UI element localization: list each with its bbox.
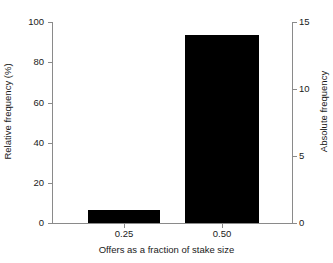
y-tick-right-0: [293, 223, 297, 224]
y-tick-label-left-40: 40: [33, 138, 44, 148]
y-tick-label-right-15: 15: [299, 17, 310, 27]
y-tick-label-right-5: 5: [299, 151, 304, 161]
bar-0: [88, 210, 160, 223]
x-tick-label-0: 0.25: [94, 229, 154, 239]
y-tick-label-left-0: 0: [39, 218, 44, 228]
y-axis-label-left-text: Relative frequency (%): [2, 63, 13, 159]
y-tick-label-left-100: 100: [28, 17, 44, 27]
y-tick-left-0: [48, 223, 52, 224]
y-tick-right-10: [293, 89, 297, 90]
x-axis-label: Offers as a fraction of stake size: [0, 244, 333, 255]
y-tick-label-left-20: 20: [33, 178, 44, 188]
y-axis-label-left: Relative frequency (%): [0, 0, 14, 223]
y-tick-label-left-60: 60: [33, 98, 44, 108]
x-tick-label-1: 0.50: [192, 229, 252, 239]
bar-chart-figure: Relative frequency (%) Absolute frequenc…: [0, 0, 333, 263]
y-tick-label-left-80: 80: [33, 57, 44, 67]
y-axis-line-right: [292, 22, 293, 224]
y-axis-label-right: Absolute frequency: [316, 0, 332, 223]
y-tick-label-right-10: 10: [299, 84, 310, 94]
plot-area: [52, 22, 292, 223]
bar-1: [185, 35, 259, 223]
y-tick-right-15: [293, 22, 297, 23]
x-axis-line: [52, 223, 293, 224]
y-tick-label-right-0: 0: [299, 218, 304, 228]
y-tick-right-5: [293, 156, 297, 157]
y-axis-label-right-text: Absolute frequency: [319, 71, 330, 152]
